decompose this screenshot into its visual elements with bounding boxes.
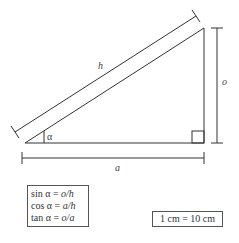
hypotenuse-dimension: [11, 10, 200, 138]
formula-cos: cos α = a/h: [31, 200, 86, 212]
right-angle-marker: [192, 131, 204, 143]
adjacent-dimension: [22, 152, 204, 164]
adjacent-label: a: [115, 162, 120, 173]
formula-tan: tan α = o/a: [31, 212, 86, 224]
angle-label: α: [47, 131, 52, 142]
right-triangle: [25, 28, 204, 143]
scale-box: 1 cm = 10 cm: [152, 211, 223, 227]
formula-box: sin α = o/h cos α = a/h tan α = o/a: [27, 185, 89, 227]
opposite-label: o: [222, 76, 227, 87]
hypotenuse-label: h: [98, 60, 103, 71]
formula-sin: sin α = o/h: [31, 188, 86, 200]
